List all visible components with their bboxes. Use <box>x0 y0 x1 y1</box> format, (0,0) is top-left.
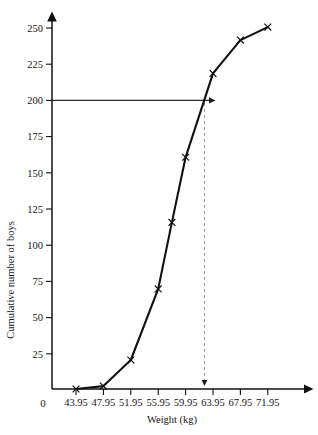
y-tick-label: 50 <box>33 312 44 323</box>
y-tick-label: 175 <box>27 131 43 142</box>
x-tick-label: 43.95 <box>64 397 88 408</box>
x-axis-ticks <box>76 389 268 395</box>
x-tick-label: 63.95 <box>201 397 225 408</box>
curve-line <box>76 27 268 389</box>
y-axis-tick-labels: 25 50 75 100 125 150 175 200 225 250 <box>27 23 43 360</box>
y-axis: 25 50 75 100 125 150 175 200 225 250 Cum… <box>5 20 52 389</box>
cumulative-frequency-chart: 25 50 75 100 125 150 175 200 225 250 Cum… <box>0 0 318 435</box>
median-construction-lines <box>52 100 210 381</box>
y-tick-label: 225 <box>27 59 43 70</box>
x-axis-title: Weight (kg) <box>147 414 198 426</box>
x-axis-tick-labels: 43.95 47.95 51.95 55.95 59.95 63.95 67.9… <box>64 397 279 408</box>
y-tick-label: 100 <box>27 240 43 251</box>
x-tick-label: 67.95 <box>229 397 253 408</box>
y-axis-title: Cumulative number of boys <box>5 221 16 339</box>
origin-label: 0 <box>40 397 46 409</box>
y-tick-label: 150 <box>27 168 43 179</box>
y-tick-label: 25 <box>33 349 44 360</box>
x-tick-label: 47.95 <box>92 397 116 408</box>
x-tick-label: 55.95 <box>146 397 170 408</box>
x-tick-label: 59.95 <box>174 397 198 408</box>
x-axis: 43.95 47.95 51.95 55.95 59.95 63.95 67.9… <box>40 389 305 426</box>
y-tick-label: 75 <box>33 276 44 287</box>
y-axis-ticks <box>46 28 52 354</box>
y-tick-label: 250 <box>27 23 43 34</box>
y-tick-label: 200 <box>27 95 43 106</box>
cropped-title <box>0 0 318 1</box>
cumulative-frequency-curve <box>73 24 272 393</box>
x-tick-label: 51.95 <box>119 397 143 408</box>
y-tick-label: 125 <box>27 204 43 215</box>
chart-svg: 25 50 75 100 125 150 175 200 225 250 Cum… <box>0 0 318 435</box>
x-tick-label: 71.95 <box>256 397 280 408</box>
data-point-markers <box>73 24 272 393</box>
